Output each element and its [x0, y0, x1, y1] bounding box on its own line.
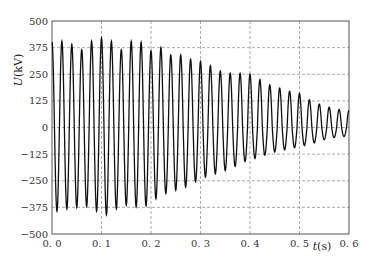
- y-tick-label: −250: [21, 175, 48, 186]
- y-tick-label: −125: [21, 149, 48, 160]
- y-tick-label: 500: [29, 16, 48, 27]
- y-tick-label: 0: [42, 122, 48, 133]
- x-tick-label: 0. 0: [42, 238, 61, 249]
- x-tick-label: 0. 6: [339, 238, 358, 249]
- x-tick-label: 0. 5: [290, 238, 309, 249]
- y-tick-label: 375: [29, 42, 48, 53]
- y-axis-label: U(kV): [12, 54, 25, 86]
- x-axis-label: t(s): [313, 240, 332, 253]
- x-tick-label: 0. 4: [240, 238, 259, 249]
- y-axis-ticks: 5003752501250−125−250−375−500: [21, 16, 48, 240]
- voltage-chart: 5003752501250−125−250−375−500 0. 00. 10.…: [0, 0, 373, 271]
- x-tick-label: 0. 1: [92, 238, 111, 249]
- x-axis-ticks: 0. 00. 10. 20. 30. 40. 50. 6: [42, 238, 358, 249]
- y-tick-label: −375: [21, 202, 48, 213]
- x-tick-label: 0. 2: [141, 238, 160, 249]
- y-tick-label: 125: [29, 95, 48, 106]
- y-tick-label: 250: [29, 69, 48, 80]
- x-tick-label: 0. 3: [191, 238, 210, 249]
- grid-lines: [52, 21, 349, 234]
